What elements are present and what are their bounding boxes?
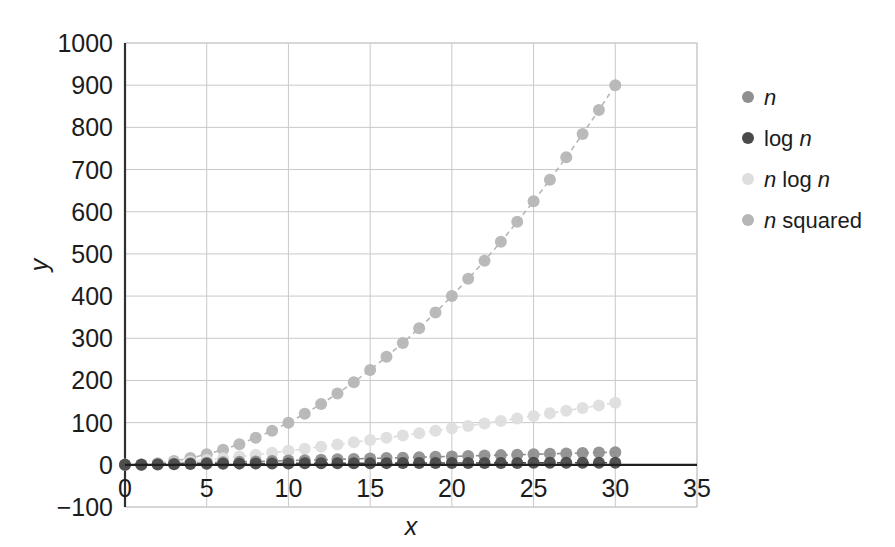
y-tick-label: 0 (99, 451, 113, 479)
data-point-marker (577, 128, 589, 140)
data-point-marker (511, 412, 523, 424)
data-point-marker (331, 439, 343, 451)
data-point-marker (593, 399, 605, 411)
data-point-marker (397, 337, 409, 349)
legend-item-log-n[interactable]: log n (742, 126, 812, 151)
legend-label: n log n (764, 167, 830, 192)
data-point-marker (315, 398, 327, 410)
x-tick-label: 35 (683, 474, 711, 502)
data-point-marker (397, 430, 409, 442)
data-point-marker (364, 457, 376, 469)
y-tick-labels: −10001002003004005006007008009001000 (57, 29, 113, 521)
x-tick-label: 20 (438, 474, 466, 502)
data-point-marker (495, 457, 507, 469)
data-point-marker (380, 432, 392, 444)
x-tick-label: 25 (520, 474, 548, 502)
data-point-marker (446, 422, 458, 434)
data-point-marker (528, 195, 540, 207)
y-tick-label: 400 (71, 282, 113, 310)
gridlines (125, 43, 697, 507)
data-point-marker (299, 408, 311, 420)
data-point-marker (250, 432, 262, 444)
y-tick-label: 700 (71, 156, 113, 184)
x-tick-label: 30 (601, 474, 629, 502)
y-tick-label: −100 (57, 493, 113, 521)
data-point-marker (446, 290, 458, 302)
data-point-marker (544, 407, 556, 419)
data-point-marker (331, 457, 343, 469)
data-point-marker (462, 420, 474, 432)
x-tick-label: 10 (275, 474, 303, 502)
y-tick-label: 900 (71, 71, 113, 99)
data-point-marker (479, 457, 491, 469)
data-point-marker (495, 415, 507, 427)
data-point-marker (528, 410, 540, 422)
chart-canvas: 05101520253035 −100010020030040050060070… (0, 0, 895, 547)
data-point-marker (560, 457, 572, 469)
data-point-marker (560, 151, 572, 163)
x-tick-labels: 05101520253035 (118, 474, 711, 502)
y-tick-label: 100 (71, 409, 113, 437)
data-point-marker (315, 457, 327, 469)
data-point-marker (233, 458, 245, 470)
data-point-marker (315, 441, 327, 453)
legend-marker-icon (742, 214, 754, 226)
data-point-marker (413, 427, 425, 439)
legend-item-n-log-n[interactable]: n log n (742, 167, 830, 192)
legend-item-n-squared[interactable]: n squared (742, 208, 862, 233)
data-point-marker (577, 402, 589, 414)
x-axis-title: x (404, 512, 419, 540)
legend-item-n[interactable]: n (742, 85, 776, 110)
data-point-marker (331, 388, 343, 400)
y-tick-label: 200 (71, 366, 113, 394)
data-point-marker (609, 446, 621, 458)
data-point-marker (413, 322, 425, 334)
data-point-marker (364, 364, 376, 376)
data-point-marker (528, 457, 540, 469)
legend-marker-icon (742, 91, 754, 103)
data-point-marker (266, 457, 278, 469)
data-point-marker (446, 457, 458, 469)
chart-legend: nlog nn log nn squared (742, 85, 862, 233)
data-point-marker (544, 457, 556, 469)
data-point-marker (348, 457, 360, 469)
plot-area-border (125, 43, 697, 507)
y-tick-label: 800 (71, 113, 113, 141)
x-tick-label: 15 (356, 474, 384, 502)
data-point-marker (593, 104, 605, 116)
data-point-marker (348, 436, 360, 448)
y-tick-label: 600 (71, 198, 113, 226)
data-point-marker (413, 457, 425, 469)
data-point-marker (282, 417, 294, 429)
data-point-marker (609, 457, 621, 469)
data-point-marker (430, 425, 442, 437)
data-point-marker (364, 434, 376, 446)
y-tick-label: 1000 (57, 29, 113, 57)
legend-marker-icon (742, 173, 754, 185)
legend-label: n squared (764, 208, 862, 233)
data-point-marker (348, 376, 360, 388)
y-tick-label: 500 (71, 240, 113, 268)
data-point-marker (380, 351, 392, 363)
data-point-marker (462, 457, 474, 469)
data-point-marker (250, 458, 262, 470)
data-point-marker (577, 457, 589, 469)
chart-figure: 05101520253035 −100010020030040050060070… (0, 0, 895, 547)
axis-spines (125, 43, 697, 507)
data-point-marker (430, 307, 442, 319)
data-point-marker (397, 457, 409, 469)
data-point-marker (495, 236, 507, 248)
legend-label: n (764, 85, 776, 110)
data-point-marker (299, 457, 311, 469)
data-point-marker (593, 457, 605, 469)
y-axis-title: y (25, 257, 53, 273)
data-point-marker (233, 438, 245, 450)
data-point-marker (511, 457, 523, 469)
legend-label: log n (764, 126, 812, 151)
data-point-marker (380, 457, 392, 469)
data-point-marker (479, 255, 491, 267)
data-point-marker (462, 273, 474, 285)
data-point-marker (282, 457, 294, 469)
x-tick-label: 0 (118, 474, 132, 502)
data-point-marker (299, 443, 311, 455)
